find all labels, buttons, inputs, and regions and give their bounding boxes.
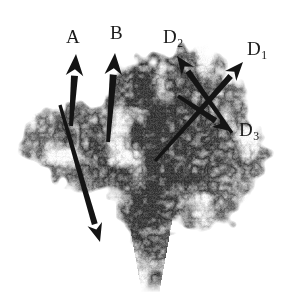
annotation-label-b: B [110,23,123,42]
figure-root: ABD2D1D3 [0,0,294,299]
annotation-label-a: A [66,27,80,46]
annotation-arrow-b [105,53,122,142]
label-subscript: 2 [177,37,183,50]
arrow-head [105,53,122,75]
arrow-shaft [58,105,97,225]
label-subscript: 3 [253,130,259,143]
annotation-label-d1: D1 [247,39,267,58]
label-subscript: 1 [261,49,267,62]
arrow-shaft [106,74,117,142]
annotation-label-d3: D3 [239,120,259,139]
arrow-layer [58,53,243,242]
arrow-head [66,54,83,76]
label-base: D [163,26,177,47]
label-base: D [247,38,261,59]
arrow-head [88,222,102,242]
annotation-label-d2: D2 [163,27,183,46]
label-base: B [110,22,123,43]
annotation-arrow-a [66,54,83,126]
annotation-arrow-diagonal-left [58,105,102,242]
arrow-shaft [69,75,78,126]
label-base: D [239,119,253,140]
label-base: A [66,26,80,47]
